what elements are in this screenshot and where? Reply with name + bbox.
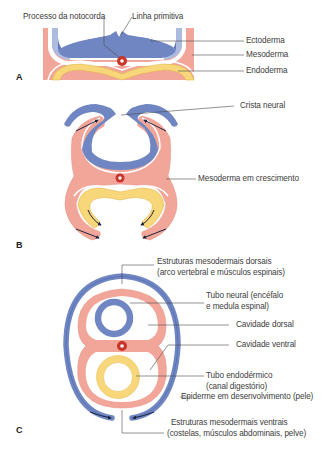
- endoderm-layer-b: [78, 188, 164, 228]
- label-dorsal-mesoderm-2: (arco vertebral e músculos espinais): [157, 268, 285, 278]
- label-endodermal-tube-2: (canal digestório): [206, 382, 267, 392]
- panel-a-illustration: [43, 28, 196, 80]
- label-endoderm: Endoderma: [246, 66, 287, 76]
- label-ventral-mesoderm-2: (costelas, músculos abdominais, pelve): [167, 429, 306, 439]
- panel-letter-c: C: [16, 425, 23, 435]
- label-ectoderm: Ectoderma: [246, 36, 285, 46]
- label-neural-tube-1: Tubo neural (encéfalo: [206, 291, 283, 301]
- panel-letter-b: B: [16, 240, 23, 250]
- label-dorsal-mesoderm-1: Estruturas mesodermais dorsais: [157, 257, 271, 267]
- label-neural-tube-2: e medula espinal): [206, 302, 269, 312]
- panel-b-illustration: [64, 104, 178, 240]
- label-epidermis: Epiderme em desenvolvimento (pele): [181, 392, 313, 402]
- panel-c-illustration: [66, 276, 178, 418]
- label-mesoderm: Mesoderma: [246, 50, 288, 60]
- label-neural-crest: Crista neural: [240, 101, 285, 111]
- label-dorsal-cavity: Cavidade dorsal: [236, 320, 294, 330]
- label-endodermal-tube-1: Tubo endodérmico: [206, 371, 272, 381]
- label-ventral-mesoderm-1: Estruturas mesodermais ventrais: [171, 418, 288, 428]
- label-growing-mesoderm: Mesoderma em crescimento: [198, 174, 299, 184]
- label-primitive-streak: Linha primitiva: [132, 12, 183, 22]
- panel-letter-a: A: [16, 72, 23, 82]
- label-notochord-process: Processo da notocorda: [23, 12, 105, 22]
- label-ventral-cavity: Cavidade ventral: [236, 340, 296, 350]
